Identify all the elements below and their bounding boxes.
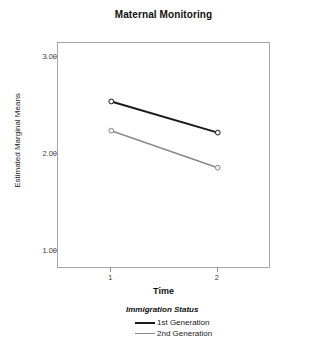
- x-tick-label: 2: [205, 273, 229, 282]
- legend-label: 2nd Generation: [157, 329, 212, 338]
- legend-entries: 1st Generation2nd Generation: [126, 317, 316, 339]
- data-point-marker: [215, 165, 220, 170]
- legend-title: Immigration Status: [126, 305, 316, 314]
- data-point-marker: [109, 128, 114, 133]
- legend-entry-2: 2nd Generation: [135, 328, 316, 339]
- legend-entry-1: 1st Generation: [135, 317, 316, 328]
- x-tick-label: 1: [98, 273, 122, 282]
- y-axis-ticks: 1.002.003.00: [10, 42, 57, 268]
- y-tick-label: 3.00: [17, 51, 57, 60]
- series-line-2: [109, 128, 220, 170]
- chart-title: Maternal Monitoring: [0, 9, 327, 20]
- legend: Immigration Status 1st Generation2nd Gen…: [126, 305, 316, 339]
- legend-label: 1st Generation: [157, 318, 209, 327]
- data-point-marker: [109, 99, 114, 104]
- y-tick-label: 2.00: [17, 149, 57, 158]
- legend-line-swatch: [135, 322, 155, 324]
- x-tick-mark: [110, 268, 111, 272]
- x-axis-ticks: 12: [57, 268, 270, 288]
- data-point-marker: [215, 130, 220, 135]
- series-line-1: [109, 99, 220, 135]
- data-lines-layer: [58, 43, 271, 269]
- profile-plot-figure: Maternal Monitoring Estimated Marginal M…: [0, 0, 327, 353]
- x-tick-mark: [217, 268, 218, 272]
- y-tick-label: 1.00: [17, 246, 57, 255]
- x-axis-title: Time: [57, 286, 270, 296]
- legend-line-swatch: [135, 333, 155, 334]
- plot-area: [57, 42, 270, 268]
